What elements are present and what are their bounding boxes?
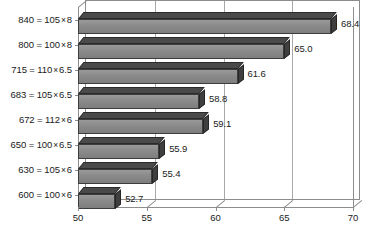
bar-front-face — [78, 69, 238, 84]
bar-top-face — [78, 87, 205, 94]
axis-right-edge — [353, 7, 354, 207]
bar-value-label: 68.4 — [341, 18, 359, 29]
bar-front-face — [78, 44, 284, 59]
category-axis: 840 = 105×8800 = 100×8715 = 110×6.5683 =… — [0, 0, 78, 205]
value-axis-label: 70 — [348, 212, 359, 223]
bar-top-face — [78, 162, 158, 169]
bar-front-face — [78, 169, 152, 184]
bar-front-face — [78, 119, 203, 134]
bar — [78, 187, 122, 203]
bar — [78, 112, 210, 128]
plot-area: 68.465.061.658.859.155.955.452.7 — [78, 0, 361, 207]
bar-chart: 840 = 105×8800 = 100×8715 = 110×6.5683 =… — [0, 0, 368, 233]
bar — [78, 37, 291, 53]
value-axis: 5055606570 — [78, 207, 368, 233]
bar-value-label: 52.7 — [125, 193, 143, 204]
bar — [78, 62, 245, 78]
bar-value-label: 65.0 — [294, 43, 312, 54]
category-label: 600 = 100×6 — [18, 189, 72, 201]
value-axis-tick — [78, 207, 79, 211]
bar — [78, 137, 166, 153]
bar-value-label: 61.6 — [248, 68, 266, 79]
bar — [78, 162, 159, 178]
value-axis-label: 60 — [210, 212, 221, 223]
bar-front-face — [78, 144, 159, 159]
bar-top-face — [78, 137, 165, 144]
category-label: 650 = 100×6.5 — [11, 139, 72, 151]
bar-value-label: 58.8 — [209, 93, 227, 104]
category-label: 715 = 110×6.5 — [11, 64, 72, 76]
bar-front-face — [78, 94, 199, 109]
category-label: 800 = 100×8 — [18, 39, 72, 51]
bar-value-label: 59.1 — [213, 118, 231, 129]
bar-value-label: 55.9 — [169, 143, 187, 154]
bar-top-face — [78, 62, 243, 69]
bar-top-face — [78, 37, 290, 44]
category-label: 683 = 105×6.5 — [11, 89, 72, 101]
value-axis-tick — [353, 207, 354, 211]
bar-top-face — [78, 12, 337, 19]
category-label: 672 = 112×6 — [19, 114, 72, 126]
value-axis-label: 65 — [279, 212, 290, 223]
bar-top-face — [78, 187, 121, 194]
bar-value-label: 55.4 — [162, 168, 180, 179]
value-axis-label: 55 — [141, 212, 152, 223]
value-axis-label: 50 — [73, 212, 84, 223]
bar-front-face — [78, 19, 331, 34]
value-axis-tick — [216, 207, 217, 211]
value-axis-tick — [284, 207, 285, 211]
bar — [78, 12, 338, 28]
category-label: 630 = 105×6 — [18, 164, 72, 176]
bar-top-face — [78, 112, 209, 119]
bar — [78, 87, 206, 103]
category-label: 840 = 105×8 — [18, 14, 72, 26]
value-axis-tick — [147, 207, 148, 211]
